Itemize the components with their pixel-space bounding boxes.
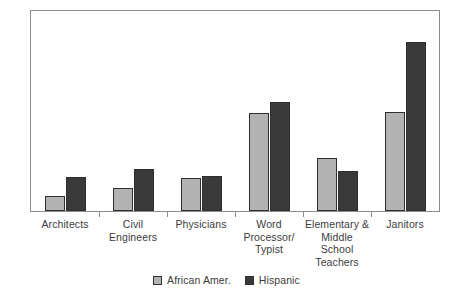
x-axis-label: WordProcessor/Typist — [235, 218, 303, 256]
legend-item: African Amer. — [153, 274, 231, 286]
bar — [66, 177, 86, 211]
bar — [338, 171, 358, 211]
bar — [317, 158, 337, 211]
x-axis-label: Janitors — [371, 218, 439, 231]
legend-swatch — [153, 276, 162, 285]
bar — [406, 42, 426, 211]
legend-label: African Amer. — [167, 274, 231, 286]
x-axis-label: Architects — [31, 218, 99, 231]
bar-chart: 05101520253035 ArchitectsCivilEngineersP… — [0, 0, 453, 295]
legend: African Amer.Hispanic — [0, 274, 453, 286]
bar — [45, 196, 65, 211]
bar — [202, 176, 222, 211]
legend-item: Hispanic — [245, 274, 300, 286]
legend-swatch — [245, 276, 254, 285]
x-axis-tick — [303, 212, 304, 217]
x-axis-label: Elementary &MiddleSchoolTeachers — [303, 218, 371, 268]
x-axis-label-line: Middle — [303, 231, 371, 244]
bar — [113, 188, 133, 211]
bar-group — [235, 11, 303, 211]
x-axis-label-line: Teachers — [303, 256, 371, 269]
bar — [134, 169, 154, 211]
x-axis-tick — [235, 212, 236, 217]
x-axis-label-line: Civil — [99, 218, 167, 231]
bars-layer — [31, 11, 439, 211]
bar-group — [303, 11, 371, 211]
bar — [181, 178, 201, 211]
bar-group — [99, 11, 167, 211]
x-axis-label-line: Janitors — [371, 218, 439, 231]
x-axis-label-line: Architects — [31, 218, 99, 231]
bar — [249, 113, 269, 211]
x-axis-label-line: Elementary & — [303, 218, 371, 231]
x-axis-labels: ArchitectsCivilEngineersPhysiciansWordPr… — [0, 218, 453, 274]
bar-group — [31, 11, 99, 211]
x-axis-label-line: Engineers — [99, 231, 167, 244]
bar — [270, 102, 290, 211]
x-axis-tick — [99, 212, 100, 217]
x-axis-label-line: Typist — [235, 243, 303, 256]
x-axis-label: Physicians — [167, 218, 235, 231]
x-axis-label: CivilEngineers — [99, 218, 167, 243]
x-axis-label-line: Physicians — [167, 218, 235, 231]
x-axis-label-line: Word — [235, 218, 303, 231]
legend-label: Hispanic — [259, 274, 300, 286]
x-axis-tick — [167, 212, 168, 217]
x-axis-label-line: Processor/ — [235, 231, 303, 244]
bar — [385, 112, 405, 211]
bar-group — [167, 11, 235, 211]
x-axis-tick — [371, 212, 372, 217]
bar-group — [371, 11, 439, 211]
x-axis-label-line: School — [303, 243, 371, 256]
